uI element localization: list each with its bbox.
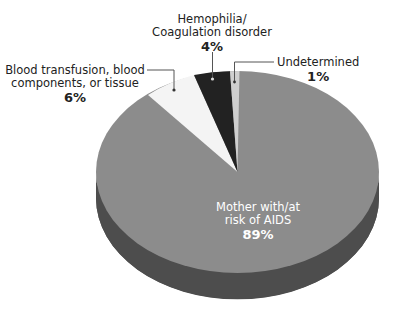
label-undetermined: Undetermined 1% [277, 56, 359, 84]
pie-chart: Hemophilia/ Coagulation disorder 4% Unde… [0, 0, 393, 314]
label-hemophilia-pct: 4% [152, 39, 272, 54]
label-mother: Mother with/at risk of AIDS 89% [198, 201, 318, 242]
label-undetermined-line1: Undetermined [277, 56, 359, 69]
label-hemophilia: Hemophilia/ Coagulation disorder 4% [152, 13, 272, 54]
label-undetermined-pct: 1% [277, 69, 359, 84]
label-mother-pct: 89% [198, 227, 318, 242]
label-blood-pct: 6% [4, 90, 146, 105]
label-hemophilia-line2: Coagulation disorder [152, 26, 272, 39]
label-blood: Blood transfusion, blood components, or … [4, 64, 146, 105]
label-blood-line2: components, or tissue [4, 77, 146, 90]
label-mother-line2: risk of AIDS [198, 214, 318, 227]
